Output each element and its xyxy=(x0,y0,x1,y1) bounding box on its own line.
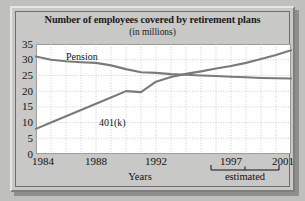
series-label-pension: Pension xyxy=(66,51,98,62)
x-axis-tick-1992: 1992 xyxy=(145,155,167,167)
estimated-bracket-icon xyxy=(205,164,285,171)
y-axis-tick-10: 10 xyxy=(22,117,33,128)
y-axis-tick-labels: 35302520151050 xyxy=(8,44,33,154)
y-axis-tick-35: 35 xyxy=(22,39,33,50)
figure-container: Number of employees covered by retiremen… xyxy=(0,0,305,201)
x-axis-tick-1988: 1988 xyxy=(85,155,107,167)
y-axis-tick-25: 25 xyxy=(22,70,33,81)
estimated-label: estimated xyxy=(205,171,285,182)
chart-title: Number of employees covered by retiremen… xyxy=(10,14,295,26)
x-axis-title: Years xyxy=(100,171,180,182)
y-axis-tick-15: 15 xyxy=(22,101,33,112)
y-axis-tick-30: 30 xyxy=(22,54,33,65)
chart-subtitle: (in millions) xyxy=(10,26,295,38)
x-axis-tick-1984: 1984 xyxy=(32,155,54,167)
title-block: Number of employees covered by retiremen… xyxy=(10,6,295,38)
y-axis-tick-5: 5 xyxy=(28,133,34,144)
series-label-401k: 401(k) xyxy=(99,117,126,128)
y-axis-tick-20: 20 xyxy=(22,86,33,97)
